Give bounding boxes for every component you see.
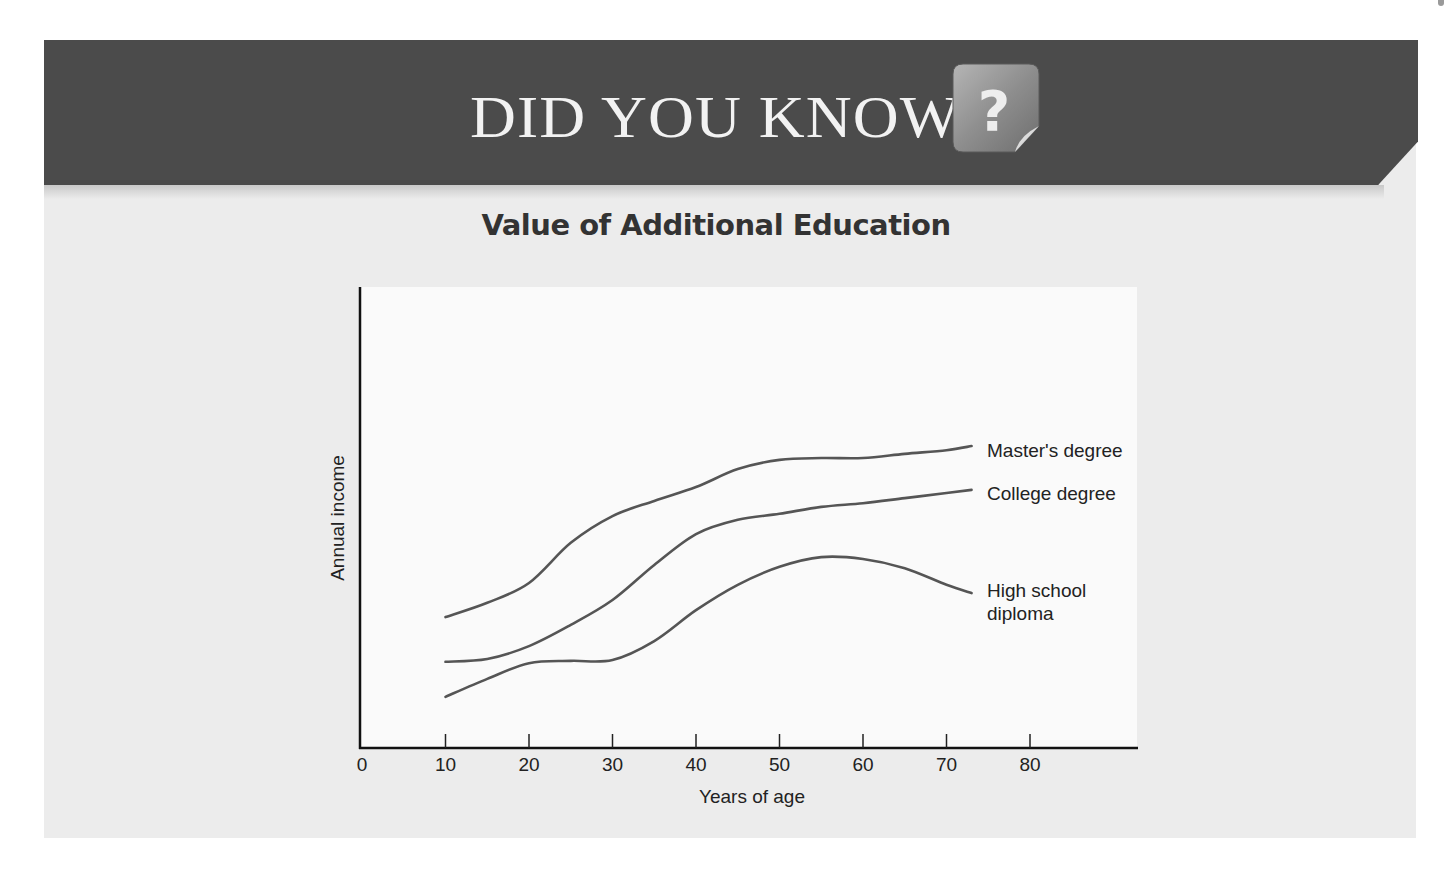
x-tick-label: 30 [602, 754, 623, 776]
y-axis-title: Annual income [327, 455, 349, 581]
series-lines [446, 446, 972, 697]
x-tick-label: 50 [769, 754, 790, 776]
series-label-college: College degree [987, 482, 1116, 505]
x-tick-label: 20 [518, 754, 539, 776]
series-label-high-school: High school diploma [987, 579, 1086, 625]
x-tick-label: 60 [852, 754, 873, 776]
x-tick-label: 0 [357, 754, 368, 776]
x-tick-label: 80 [1019, 754, 1040, 776]
series-line-high-school [446, 557, 972, 697]
series-label-high-school-line2: diploma [987, 602, 1086, 625]
series-label-masters: Master's degree [987, 439, 1123, 462]
x-tick-label: 40 [685, 754, 706, 776]
line-chart [0, 0, 1452, 875]
series-line-masters [446, 446, 972, 617]
x-tick-label: 10 [435, 754, 456, 776]
x-axis-ticks [446, 734, 1031, 748]
series-label-high-school-line1: High school [987, 579, 1086, 602]
x-axis-title: Years of age [699, 786, 805, 808]
series-line-college [446, 490, 972, 662]
x-tick-label: 70 [936, 754, 957, 776]
